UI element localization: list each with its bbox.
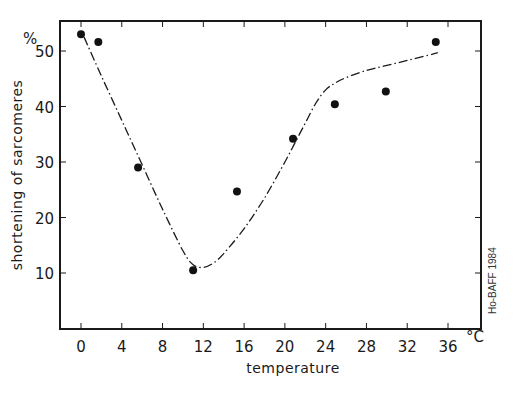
x-tick-label: 0 [76, 338, 86, 356]
x-axis-title: temperature [246, 360, 340, 376]
y-tick-label: 40 [35, 99, 54, 117]
data-point [134, 164, 142, 172]
plot-border [60, 21, 481, 329]
x-tick-label: 32 [398, 338, 417, 356]
x-unit-label: °C [466, 328, 484, 346]
y-tick-label: 50 [35, 43, 54, 61]
y-axis-title: shortening of sarcomeres [9, 80, 25, 271]
y-unit-label: % [23, 30, 37, 48]
data-point [94, 38, 102, 46]
x-tick-label: 24 [316, 338, 335, 356]
x-tick-label: 4 [117, 338, 127, 356]
data-point [289, 135, 297, 143]
x-tick-label: 8 [158, 338, 168, 356]
chart: 04812162024283236 1020304050 % °C temper… [0, 0, 517, 396]
data-point [233, 187, 241, 195]
credit-annotation: Ho-BAFF 1984 [487, 247, 498, 314]
data-point [432, 38, 440, 46]
plot-frame [60, 21, 481, 329]
x-tick-label: 12 [194, 338, 213, 356]
y-tick-label: 20 [35, 210, 54, 228]
x-axis-ticks: 04812162024283236 [76, 21, 457, 356]
data-point [189, 266, 197, 274]
data-points [77, 30, 440, 274]
x-tick-label: 28 [357, 338, 376, 356]
data-point [331, 100, 339, 108]
x-tick-label: 20 [275, 338, 294, 356]
x-tick-label: 36 [438, 338, 457, 356]
data-point [382, 88, 390, 96]
x-tick-label: 16 [235, 338, 254, 356]
data-point [77, 30, 85, 38]
dash-dot-line [84, 37, 438, 267]
y-axis-ticks: 1020304050 [35, 43, 481, 283]
y-tick-label: 10 [35, 265, 54, 283]
y-tick-label: 30 [35, 154, 54, 172]
fitted-curve [84, 37, 438, 267]
